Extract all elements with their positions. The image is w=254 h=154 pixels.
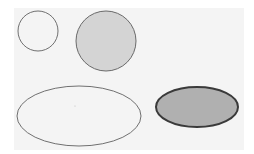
gray-circle[interactable] xyxy=(76,11,136,71)
outline-ellipse[interactable] xyxy=(17,86,141,146)
small-circle[interactable] xyxy=(18,11,58,51)
dark-ellipse[interactable] xyxy=(156,87,238,127)
center-dot xyxy=(74,105,75,106)
shapes-layer xyxy=(0,0,254,154)
